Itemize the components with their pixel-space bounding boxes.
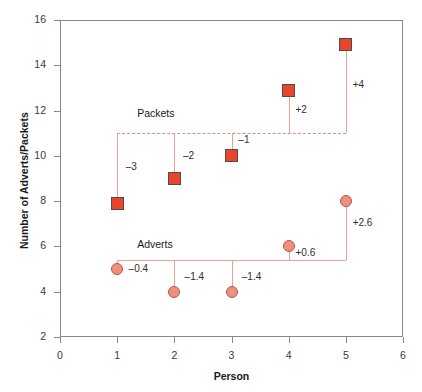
x-axis-title: Person [60, 370, 403, 382]
x-tick-label: 4 [273, 349, 305, 361]
y-tick-mark [54, 201, 60, 202]
deviation-label: –3 [126, 161, 137, 172]
y-tick-mark [54, 156, 60, 157]
y-axis-title: Number of Adverts/Packets [18, 112, 30, 249]
y-tick-mark [54, 111, 60, 112]
data-point-packets[interactable] [168, 172, 181, 185]
y-tick-mark [54, 292, 60, 293]
chart-root: 246810121416 0123456 PacketsAdverts–3–2–… [0, 0, 422, 392]
y-tick-label: 4 [14, 285, 46, 297]
deviation-stem [346, 201, 347, 260]
x-tick-label: 6 [387, 349, 419, 361]
data-point-adverts[interactable] [340, 195, 352, 207]
y-tick-mark [54, 20, 60, 21]
x-tick-mark [346, 337, 347, 343]
data-point-packets[interactable] [225, 149, 238, 162]
data-point-adverts[interactable] [168, 286, 180, 298]
deviation-label: +2 [296, 104, 307, 115]
x-tick-label: 3 [216, 349, 248, 361]
x-tick-mark [232, 337, 233, 343]
data-point-packets[interactable] [111, 197, 124, 210]
x-tick-mark [289, 337, 290, 343]
x-tick-mark [403, 337, 404, 343]
x-tick-label: 5 [330, 349, 362, 361]
deviation-label: –1 [238, 134, 249, 145]
y-tick-label: 16 [14, 13, 46, 25]
x-tick-mark [60, 337, 61, 343]
y-tick-label: 2 [14, 330, 46, 342]
deviation-label: –2 [183, 150, 194, 161]
deviation-label: +2.6 [353, 217, 373, 228]
data-point-packets[interactable] [282, 84, 295, 97]
x-tick-mark [117, 337, 118, 343]
x-tick-label: 2 [158, 349, 190, 361]
deviation-stem [346, 45, 347, 133]
deviation-label: –1.4 [185, 271, 204, 282]
y-tick-mark [54, 65, 60, 66]
deviation-label: +0.6 [296, 247, 316, 258]
data-point-packets[interactable] [339, 38, 352, 51]
deviation-label: –0.4 [129, 263, 148, 274]
y-tick-label: 14 [14, 58, 46, 70]
series-label-adverts: Adverts [137, 238, 173, 250]
x-tick-label: 1 [101, 349, 133, 361]
deviation-stem [117, 133, 118, 203]
deviation-label: +4 [353, 79, 364, 90]
y-tick-mark [54, 246, 60, 247]
deviation-label: –1.4 [242, 271, 261, 282]
x-tick-mark [174, 337, 175, 343]
series-label-packets: Packets [137, 107, 174, 119]
x-tick-label: 0 [44, 349, 76, 361]
data-point-adverts[interactable] [226, 286, 238, 298]
